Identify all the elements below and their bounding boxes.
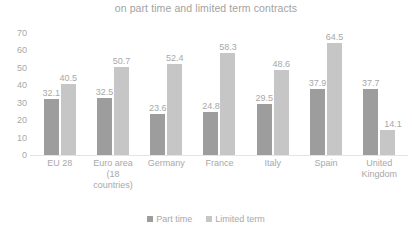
bar-chart: on part time and limited term contracts … xyxy=(0,0,412,237)
bar-value-label: 24.8 xyxy=(202,102,220,111)
bar-group: 29.548.6 xyxy=(246,33,299,155)
y-axis-tick-label: 70 xyxy=(17,29,27,38)
bar[interactable]: 14.1 xyxy=(380,130,395,155)
legend-label: Limited term xyxy=(215,214,265,224)
bar-fill xyxy=(97,98,112,155)
bar[interactable]: 48.6 xyxy=(274,70,289,155)
bar-fill xyxy=(274,70,289,155)
bar[interactable]: 32.1 xyxy=(44,99,59,155)
x-axis-label: Euro area (18 countries) xyxy=(86,158,139,204)
bar-value-label: 40.5 xyxy=(59,74,77,83)
bar-fill xyxy=(363,89,378,155)
legend-item[interactable]: Limited term xyxy=(206,214,265,224)
bar[interactable]: 50.7 xyxy=(114,67,129,155)
x-axis-label: Italy xyxy=(246,158,299,204)
bar-fill xyxy=(114,67,129,155)
bar-value-label: 48.6 xyxy=(273,60,291,69)
legend-item[interactable]: Part time xyxy=(147,214,192,224)
y-axis-tick-label: 20 xyxy=(17,116,27,125)
bar-value-label: 64.5 xyxy=(326,33,344,42)
bar-value-label: 50.7 xyxy=(113,57,131,66)
x-axis-label: EU 28 xyxy=(33,158,86,204)
bar[interactable]: 64.5 xyxy=(327,43,342,155)
bar-value-label: 58.3 xyxy=(219,43,237,52)
bar-value-label: 14.1 xyxy=(384,120,402,129)
bar-fill xyxy=(257,104,272,155)
y-axis-tick-label: 40 xyxy=(17,81,27,90)
bar[interactable]: 40.5 xyxy=(61,84,76,155)
bar-fill xyxy=(310,89,325,155)
y-axis-tick-label: 30 xyxy=(17,98,27,107)
bar-value-label: 29.5 xyxy=(256,94,274,103)
bar-value-label: 52.4 xyxy=(166,54,184,63)
bar[interactable]: 24.8 xyxy=(203,112,218,155)
y-axis-tick-label: 50 xyxy=(17,63,27,72)
chart-legend: Part timeLimited term xyxy=(0,214,412,224)
y-axis-tick-label: 10 xyxy=(17,133,27,142)
bar-fill xyxy=(150,114,165,155)
x-axis-label: France xyxy=(193,158,246,204)
bar[interactable]: 37.7 xyxy=(363,89,378,155)
x-axis-category-labels: EU 28Euro area (18 countries)GermanyFran… xyxy=(33,158,406,204)
bar-group: 32.550.7 xyxy=(86,33,139,155)
x-axis-label: Spain xyxy=(299,158,352,204)
legend-swatch-icon xyxy=(206,216,212,222)
bar-fill xyxy=(220,53,235,155)
legend-label: Part time xyxy=(156,214,192,224)
bar[interactable]: 32.5 xyxy=(97,98,112,155)
bar-fill xyxy=(44,99,59,155)
bar-group: 32.140.5 xyxy=(33,33,86,155)
bar-value-label: 23.6 xyxy=(149,104,167,113)
bar-fill xyxy=(61,84,76,155)
bar[interactable]: 52.4 xyxy=(167,64,182,155)
bar[interactable]: 58.3 xyxy=(220,53,235,155)
bar-group: 37.714.1 xyxy=(353,33,406,155)
x-axis-label: Germany xyxy=(140,158,193,204)
bar-fill xyxy=(327,43,342,155)
y-axis: 706050403020100 xyxy=(0,33,30,155)
bar-fill xyxy=(380,130,395,155)
legend-swatch-icon xyxy=(147,216,153,222)
bar-value-label: 32.5 xyxy=(96,88,114,97)
bar-group: 37.964.5 xyxy=(299,33,352,155)
bar-fill xyxy=(203,112,218,155)
bar-value-label: 32.1 xyxy=(42,89,60,98)
bar[interactable]: 37.9 xyxy=(310,89,325,155)
plot-area: 32.140.532.550.723.652.424.858.329.548.6… xyxy=(33,33,406,155)
bar-group: 23.652.4 xyxy=(140,33,193,155)
bar[interactable]: 29.5 xyxy=(257,104,272,155)
x-axis-line xyxy=(30,155,408,156)
bar-group: 24.858.3 xyxy=(193,33,246,155)
x-axis-label: United Kingdom xyxy=(353,158,406,204)
bar[interactable]: 23.6 xyxy=(150,114,165,155)
bar-value-label: 37.9 xyxy=(309,79,327,88)
y-axis-tick-label: 0 xyxy=(22,151,27,160)
chart-title: on part time and limited term contracts xyxy=(0,2,412,14)
bar-value-label: 37.7 xyxy=(362,79,380,88)
bar-fill xyxy=(167,64,182,155)
y-axis-tick-label: 60 xyxy=(17,46,27,55)
